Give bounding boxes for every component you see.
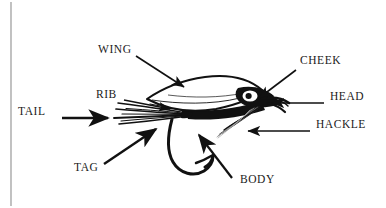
- label-tail: TAIL: [18, 106, 45, 118]
- label-wing: WING: [98, 44, 132, 56]
- fly-eye-pupil: [246, 93, 252, 99]
- label-cheek: CHEEK: [300, 55, 341, 67]
- diagram-canvas: [0, 0, 386, 208]
- fly-anatomy-diagram: TAIL RIB WING TAG CHEEK HEAD HACKLE BODY: [0, 0, 386, 208]
- label-hackle: HACKLE: [316, 119, 366, 131]
- label-rib: RIB: [96, 89, 117, 101]
- label-body: BODY: [240, 174, 275, 186]
- label-tag: TAG: [74, 162, 98, 174]
- label-head: HEAD: [330, 91, 364, 103]
